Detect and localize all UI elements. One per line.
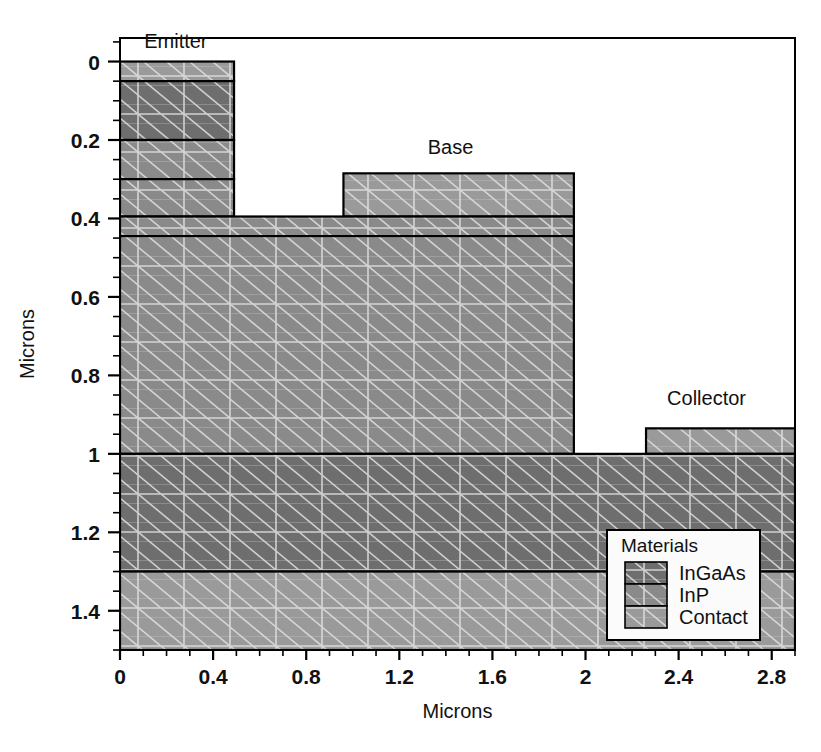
annotation-base: Base xyxy=(428,136,474,158)
y-tick-label: 0.2 xyxy=(71,129,100,152)
legend-item-inp: InP xyxy=(625,584,709,606)
x-tick-label: 0 xyxy=(114,665,126,688)
region-emitter-inp-upper xyxy=(120,140,234,179)
region-emitter-inp-lower xyxy=(120,179,234,216)
x-tick-label: 1.6 xyxy=(478,665,507,688)
legend-swatch-contact xyxy=(625,606,667,628)
y-axis-title: Microns xyxy=(16,309,38,379)
annotation-emitter: Emitter xyxy=(144,30,208,52)
x-tick-label: 0.4 xyxy=(199,665,229,688)
legend-item-ingaas: InGaAs xyxy=(625,562,746,584)
y-tick-label: 1 xyxy=(88,443,100,466)
region-base-collector-body xyxy=(120,236,574,454)
cross-section-plot: 00.40.81.21.622.42.800.20.40.60.811.21.4… xyxy=(0,0,821,752)
device-cross-section-figure: 00.40.81.21.622.42.800.20.40.60.811.21.4… xyxy=(0,0,821,752)
legend-swatch-inp xyxy=(625,584,667,606)
legend-label: InP xyxy=(679,584,709,606)
region-base-contact-pad xyxy=(343,173,573,216)
region-collector-contact-pad xyxy=(646,428,795,454)
annotation-collector: Collector xyxy=(667,387,746,409)
legend-label: InGaAs xyxy=(679,562,746,584)
y-tick-label: 0 xyxy=(88,51,100,74)
materials-legend: MaterialsInGaAsInPContact xyxy=(607,530,760,640)
region-emitter-contact-cap xyxy=(120,62,234,82)
x-tick-label: 2.4 xyxy=(664,665,694,688)
x-tick-label: 2 xyxy=(580,665,592,688)
y-tick-label: 1.2 xyxy=(71,521,100,544)
region-emitter-ingaas xyxy=(120,81,234,140)
region-base-inp-layer xyxy=(120,217,574,237)
y-tick-label: 0.4 xyxy=(71,207,101,230)
y-tick-label: 1.4 xyxy=(71,600,101,623)
legend-label: Contact xyxy=(679,606,748,628)
y-tick-label: 0.6 xyxy=(71,286,100,309)
y-tick-label: 0.8 xyxy=(71,364,101,387)
legend-item-contact: Contact xyxy=(625,606,748,628)
x-axis-title: Microns xyxy=(422,700,492,722)
legend-title: Materials xyxy=(621,535,698,556)
legend-swatch-ingaas xyxy=(625,562,667,584)
x-tick-label: 2.8 xyxy=(757,665,787,688)
x-tick-label: 1.2 xyxy=(385,665,414,688)
x-tick-label: 0.8 xyxy=(292,665,322,688)
